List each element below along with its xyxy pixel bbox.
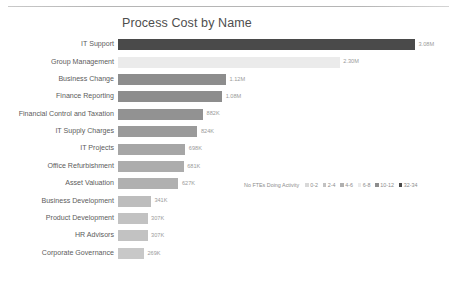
chart-canvas: Process Cost by Name IT Support3.08MGrou… bbox=[0, 0, 457, 281]
bar-track: 1.12M bbox=[118, 71, 457, 88]
bar[interactable] bbox=[118, 213, 148, 224]
bar[interactable] bbox=[118, 126, 197, 137]
legend-item[interactable]: 4-6 bbox=[340, 182, 353, 188]
bar-category-label: Business Development bbox=[0, 198, 118, 205]
bar-row: IT Supply Charges824K bbox=[0, 123, 457, 140]
bar-category-label: Corporate Governance bbox=[0, 250, 118, 257]
bar-category-label: Financial Control and Taxation bbox=[0, 111, 118, 118]
bar-category-label: Group Management bbox=[0, 59, 118, 66]
bar-value-label: 2.30M bbox=[343, 59, 359, 65]
bar-value-label: 1.12M bbox=[230, 77, 246, 83]
bar-category-label: Finance Reporting bbox=[0, 93, 118, 100]
bar[interactable] bbox=[118, 74, 226, 85]
bar[interactable] bbox=[118, 109, 203, 120]
bar-row: Product Development307K bbox=[0, 210, 457, 227]
bar-row: Corporate Governance269K bbox=[0, 245, 457, 262]
legend-swatch-icon bbox=[358, 183, 362, 187]
bar-value-label: 3.08M bbox=[419, 42, 435, 48]
legend-item-label: 0-2 bbox=[310, 182, 318, 188]
bar-track: 307K bbox=[118, 210, 457, 227]
bar-value-label: 1.08M bbox=[226, 94, 242, 100]
bar-category-label: HR Advisors bbox=[0, 232, 118, 239]
bar-value-label: 698K bbox=[189, 146, 202, 152]
legend-item-label: 2-4 bbox=[328, 182, 336, 188]
bar-row: Business Development341K bbox=[0, 193, 457, 210]
bar[interactable] bbox=[118, 39, 415, 50]
bar-row: IT Support3.08M bbox=[0, 36, 457, 53]
legend-item-label: 4-6 bbox=[345, 182, 353, 188]
legend-item[interactable]: 10-12 bbox=[375, 182, 394, 188]
bar-row: HR Advisors307K bbox=[0, 227, 457, 244]
bar-value-label: 341K bbox=[154, 198, 167, 204]
bar-category-label: IT Supply Charges bbox=[0, 128, 118, 135]
legend-item[interactable]: 32-34 bbox=[399, 182, 418, 188]
bar-track: 824K bbox=[118, 123, 457, 140]
bar-row: Financial Control and Taxation882K bbox=[0, 106, 457, 123]
bar-row: Finance Reporting1.08M bbox=[0, 88, 457, 105]
bar[interactable] bbox=[118, 91, 222, 102]
chart-legend: No FTEs Doing Activity 0-22-44-66-810-12… bbox=[244, 182, 418, 188]
legend-item-label: 32-34 bbox=[404, 182, 418, 188]
bar[interactable] bbox=[118, 57, 340, 68]
bar-value-label: 307K bbox=[151, 233, 164, 239]
bar-track: 307K bbox=[118, 227, 457, 244]
bar-row: Business Change1.12M bbox=[0, 71, 457, 88]
bar-category-label: IT Support bbox=[0, 41, 118, 48]
chart-title: Process Cost by Name bbox=[122, 16, 252, 30]
bar-track: 1.08M bbox=[118, 88, 457, 105]
bar-track: 882K bbox=[118, 106, 457, 123]
bar-track: 3.08M bbox=[118, 36, 457, 53]
legend-item-label: 10-12 bbox=[380, 182, 394, 188]
bar-row: Group Management2.30M bbox=[0, 53, 457, 70]
bar-value-label: 269K bbox=[147, 251, 160, 257]
legend-swatch-icon bbox=[305, 183, 309, 187]
top-divider bbox=[8, 6, 449, 7]
bar[interactable] bbox=[118, 196, 151, 207]
bar-category-label: IT Projects bbox=[0, 145, 118, 152]
bar[interactable] bbox=[118, 248, 144, 259]
bar-track: 269K bbox=[118, 245, 457, 262]
bar-value-label: 307K bbox=[151, 216, 164, 222]
bar-category-label: Business Change bbox=[0, 76, 118, 83]
bar-value-label: 824K bbox=[201, 129, 214, 135]
bar[interactable] bbox=[118, 178, 178, 189]
legend-item-label: 6-8 bbox=[363, 182, 371, 188]
bar-track: 2.30M bbox=[118, 53, 457, 70]
bar-track: 698K bbox=[118, 140, 457, 157]
legend-item[interactable]: 6-8 bbox=[358, 182, 371, 188]
bar-value-label: 882K bbox=[207, 111, 220, 117]
legend-swatch-icon bbox=[399, 183, 403, 187]
bar-value-label: 627K bbox=[182, 181, 195, 187]
legend-item[interactable]: 2-4 bbox=[323, 182, 336, 188]
legend-item[interactable]: 0-2 bbox=[305, 182, 318, 188]
bar-category-label: Office Refurbishment bbox=[0, 163, 118, 170]
bar[interactable] bbox=[118, 230, 148, 241]
bar-row: IT Projects698K bbox=[0, 140, 457, 157]
bar-value-label: 681K bbox=[187, 164, 200, 170]
bar-plot-area: IT Support3.08MGroup Management2.30MBusi… bbox=[0, 36, 457, 262]
bar-track: 681K bbox=[118, 158, 457, 175]
legend-title: No FTEs Doing Activity bbox=[244, 182, 299, 188]
bar[interactable] bbox=[118, 144, 185, 155]
bar-track: 341K bbox=[118, 193, 457, 210]
bar[interactable] bbox=[118, 161, 184, 172]
bar-row: Office Refurbishment681K bbox=[0, 158, 457, 175]
legend-swatch-icon bbox=[375, 183, 379, 187]
legend-swatch-icon bbox=[323, 183, 327, 187]
bar-category-label: Asset Valuation bbox=[0, 180, 118, 187]
bar-category-label: Product Development bbox=[0, 215, 118, 222]
legend-swatch-icon bbox=[340, 183, 344, 187]
